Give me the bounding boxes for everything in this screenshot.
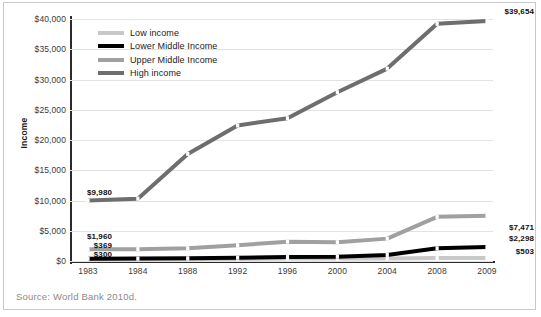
legend-item-label: High income xyxy=(130,68,181,78)
legend-item-label: Lower Middle Income xyxy=(130,41,217,51)
y-axis-tick-label: $40,000 xyxy=(35,14,66,24)
x-axis-tick-label: 2000 xyxy=(328,266,347,276)
data-label-high-income-first: $9,980 xyxy=(87,188,112,197)
y-axis-tick-label: $5,000 xyxy=(39,226,66,236)
y-axis-tick-label: $0 xyxy=(56,256,66,266)
series-point-marker xyxy=(386,237,389,241)
x-axis-tick-label: 1983 xyxy=(78,266,97,276)
series-point-marker xyxy=(336,90,339,94)
legend-item: High income xyxy=(98,68,217,79)
series-point-marker xyxy=(186,246,189,250)
series-point-marker xyxy=(136,197,139,201)
series-point-marker xyxy=(236,243,239,247)
series-point-marker xyxy=(236,123,239,127)
series-line-upper-middle-income xyxy=(88,216,487,249)
series-point-marker xyxy=(485,245,488,249)
x-axis-tick-label: 1992 xyxy=(228,266,247,276)
data-label-lower-middle-first: $369 xyxy=(94,241,112,250)
series-point-marker xyxy=(485,256,488,260)
data-label-upper-middle-first: $1,960 xyxy=(87,232,112,241)
figure-container: $0$5,000$10,000$15,000$20,000$25,000$30,… xyxy=(0,0,541,317)
series-point-marker xyxy=(186,256,189,260)
legend-item-label: Upper Middle Income xyxy=(130,55,217,65)
data-label-upper-middle-last: $7,471 xyxy=(509,223,534,232)
x-axis-tick-label: 2009 xyxy=(477,266,496,276)
y-axis-tick-label: $10,000 xyxy=(35,196,66,206)
y-axis-tick-label: $30,000 xyxy=(35,75,66,85)
y-axis-tick-label: $15,000 xyxy=(35,165,66,175)
x-axis-tick-labels: 198319841988199219962000200420082009 xyxy=(0,266,541,280)
series-point-marker xyxy=(485,19,488,23)
y-axis-tick-label: $20,000 xyxy=(35,135,66,145)
series-point-marker xyxy=(286,255,289,259)
series-point-marker xyxy=(136,247,139,251)
series-point-marker xyxy=(386,253,389,257)
legend-swatch-icon xyxy=(98,31,124,35)
x-axis-tick-label: 2004 xyxy=(378,266,397,276)
data-label-high-income-last: $39,654 xyxy=(504,7,534,16)
series-point-marker xyxy=(286,116,289,120)
legend-item: Upper Middle Income xyxy=(98,54,217,65)
series-point-marker xyxy=(436,22,439,26)
legend-swatch-icon xyxy=(98,44,124,48)
series-point-marker xyxy=(86,199,89,203)
y-axis-title: Income xyxy=(19,103,29,163)
legend-item: Lower Middle Income xyxy=(98,41,217,52)
series-point-marker xyxy=(436,256,439,260)
y-axis-tick-label: $35,000 xyxy=(35,44,66,54)
series-point-marker xyxy=(336,255,339,259)
series-point-marker xyxy=(236,256,239,260)
series-point-marker xyxy=(485,214,488,218)
legend-item-label: Low income xyxy=(130,28,179,38)
x-axis-tick-label: 2008 xyxy=(427,266,446,276)
data-label-lower-middle-last: $2,298 xyxy=(509,234,534,243)
data-label-low-income-first: $300 xyxy=(94,250,112,259)
x-axis-tick-label: 1984 xyxy=(128,266,147,276)
series-point-marker xyxy=(286,240,289,244)
series-point-marker xyxy=(436,246,439,250)
x-axis-tick-label: 1996 xyxy=(278,266,297,276)
series-point-marker xyxy=(436,215,439,219)
legend: Low incomeLower Middle IncomeUpper Middl… xyxy=(98,27,217,79)
series-point-marker xyxy=(386,67,389,71)
data-label-low-income-last: $503 xyxy=(516,247,534,256)
series-point-marker xyxy=(136,257,139,261)
source-note: Source: World Bank 2010d. xyxy=(16,291,137,302)
x-axis-tick-label: 1988 xyxy=(178,266,197,276)
series-point-marker xyxy=(336,240,339,244)
legend-swatch-icon xyxy=(98,71,124,75)
series-point-marker xyxy=(86,247,89,251)
series-point-marker xyxy=(186,152,189,156)
legend-item: Low income xyxy=(98,27,217,38)
series-point-marker xyxy=(386,256,389,260)
y-axis-tick-label: $25,000 xyxy=(35,105,66,115)
series-point-marker xyxy=(86,257,89,261)
legend-swatch-icon xyxy=(98,58,124,62)
